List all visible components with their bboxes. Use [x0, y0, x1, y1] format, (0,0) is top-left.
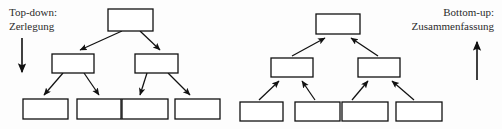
edge-middle-left-to-leaf1	[44, 73, 63, 95]
left-leaf-node-3	[122, 99, 168, 119]
edge-middle-right-to-leaf3	[140, 73, 147, 95]
edge-middle-left-to-leaf2	[84, 73, 99, 95]
hierarchy-diagram: Top-down: Zerlegung Bottom-up: Zusammenf…	[0, 0, 502, 129]
edge-middle-left-to-root	[292, 38, 325, 56]
edge-leaf2-to-middle-left	[302, 81, 315, 100]
right-leaf-node-3	[342, 102, 388, 121]
right-middle-node-1	[271, 58, 313, 77]
right-leaf-node-4	[396, 102, 442, 121]
edge-middle-right-to-leaf4	[168, 73, 190, 95]
left-leaf-node-1	[23, 99, 68, 119]
right-root-node	[316, 14, 360, 34]
edge-root-to-middle-right	[140, 31, 160, 50]
left-middle-node-1	[52, 54, 94, 73]
edge-leaf1-to-middle-left	[259, 81, 279, 100]
left-root-node	[108, 9, 153, 31]
right-tree-nodes	[240, 14, 442, 121]
right-middle-node-2	[358, 58, 400, 77]
edge-leaf4-to-middle-right	[392, 81, 414, 100]
edge-leaf3-to-middle-right	[352, 81, 368, 100]
edge-root-to-middle-left	[80, 31, 122, 50]
left-middle-node-2	[135, 54, 178, 73]
left-leaf-node-4	[175, 99, 220, 119]
diagram-canvas	[0, 0, 502, 129]
right-leaf-node-2	[295, 102, 340, 121]
right-leaf-node-1	[240, 102, 283, 121]
left-tree-nodes	[23, 9, 220, 119]
left-leaf-node-2	[77, 99, 121, 119]
edge-middle-right-to-root	[351, 38, 378, 56]
